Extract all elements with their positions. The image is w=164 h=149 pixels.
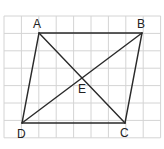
parallelogram-diagram: A B C D E <box>0 0 164 149</box>
label-a: A <box>33 17 41 31</box>
segment-da <box>22 33 39 123</box>
label-d: D <box>17 127 26 141</box>
label-b: B <box>137 17 145 31</box>
segments <box>22 33 142 123</box>
label-e: E <box>78 82 86 96</box>
segment-bd <box>22 33 142 123</box>
segment-bc <box>125 33 142 123</box>
label-c: C <box>120 126 129 140</box>
